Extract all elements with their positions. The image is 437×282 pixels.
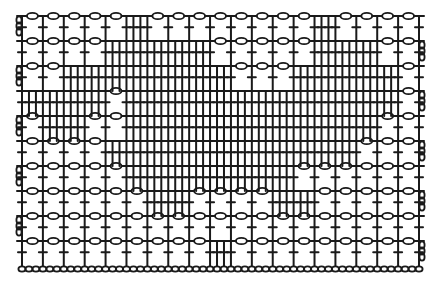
chain-loop: [27, 163, 38, 169]
chain-loop: [236, 238, 247, 244]
filled-block: [59, 66, 85, 91]
stitch-grid: [17, 13, 424, 266]
chain-loop: [48, 163, 59, 169]
filled-block: [121, 91, 147, 116]
chain-loop: [361, 213, 372, 219]
chain-loop: [173, 13, 184, 19]
chain-loop: [278, 13, 289, 19]
chain-loop: [27, 38, 38, 44]
chain-loop: [361, 13, 372, 19]
chain-loop: [382, 163, 393, 169]
filled-block: [205, 241, 231, 266]
filled-block: [142, 41, 168, 66]
chain-loop: [236, 213, 247, 219]
filled-block: [247, 91, 273, 116]
chain-loop: [257, 238, 268, 244]
chain-loop: [194, 238, 205, 244]
chain-loop: [299, 13, 310, 19]
chain-loop: [69, 163, 80, 169]
chain-loop: [340, 13, 351, 19]
chain-loop: [382, 213, 393, 219]
chain-loop: [27, 138, 38, 144]
filled-block: [121, 141, 147, 166]
chain-loop: [361, 238, 372, 244]
chain-loop: [361, 163, 372, 169]
chain-loop: [278, 38, 289, 44]
chain-loop: [27, 238, 38, 244]
filled-block: [38, 91, 64, 116]
filled-block: [247, 116, 273, 141]
filled-block: [330, 66, 356, 91]
filled-block: [310, 16, 336, 41]
chain-loop: [48, 188, 59, 194]
chain-loop: [403, 88, 414, 94]
chain-loop: [403, 63, 414, 69]
filled-block: [268, 116, 294, 141]
filled-block: [330, 116, 356, 141]
chain-loop: [319, 188, 330, 194]
filled-block: [268, 91, 294, 116]
filled-block: [289, 91, 315, 116]
chain-loop: [152, 238, 163, 244]
filled-block: [205, 91, 231, 116]
filled-block: [121, 66, 147, 91]
filled-block: [226, 116, 252, 141]
chain-loop: [27, 188, 38, 194]
chain-loop: [90, 188, 101, 194]
filled-block: [247, 141, 273, 166]
filled-block: [310, 41, 336, 66]
chain-loop: [403, 13, 414, 19]
filled-block: [142, 166, 168, 191]
chain-loop: [90, 13, 101, 19]
filled-block: [351, 41, 377, 66]
filled-block: [268, 166, 294, 191]
foundation-chain: [18, 266, 422, 271]
chain-loop: [48, 38, 59, 44]
chart-row: [17, 138, 424, 166]
filled-block: [268, 141, 294, 166]
chain-loop: [27, 213, 38, 219]
chain-loop: [340, 238, 351, 244]
filled-block: [121, 16, 147, 41]
chain-loop: [403, 138, 414, 144]
chain-loop: [194, 13, 205, 19]
chain-loop: [111, 13, 122, 19]
filled-block: [142, 141, 168, 166]
chain-loop: [69, 188, 80, 194]
filled-block: [310, 116, 336, 141]
filled-block: [142, 91, 168, 116]
chain-loop: [382, 13, 393, 19]
chain-loop: [257, 38, 268, 44]
filled-block: [80, 66, 106, 91]
filet-crochet-chart: [0, 0, 437, 282]
filled-block: [330, 91, 356, 116]
chain-loop: [69, 238, 80, 244]
chain-loop: [111, 113, 122, 119]
chain-loop: [403, 188, 414, 194]
filled-block: [163, 66, 189, 91]
chain-loop: [257, 13, 268, 19]
chain-loop: [403, 38, 414, 44]
chain-loop: [403, 163, 414, 169]
chain-loop: [90, 138, 101, 144]
filled-block: [205, 66, 231, 91]
filled-block: [205, 141, 231, 166]
chain-loop: [382, 138, 393, 144]
chain-loop: [111, 238, 122, 244]
chart-row: [17, 63, 424, 91]
filled-block: [226, 141, 252, 166]
chain-loop: [403, 113, 414, 119]
chain-loop: [361, 188, 372, 194]
chain-loop: [403, 213, 414, 219]
chain-loop: [319, 213, 330, 219]
chain-loop: [131, 213, 142, 219]
chain-loop: [69, 13, 80, 19]
filled-block: [163, 116, 189, 141]
chain-loop: [69, 213, 80, 219]
chart-row: [17, 38, 424, 66]
chain-loop: [299, 238, 310, 244]
chain-loop: [27, 13, 38, 19]
filled-block: [310, 66, 336, 91]
filled-block: [226, 91, 252, 116]
chart-row: [17, 88, 424, 116]
